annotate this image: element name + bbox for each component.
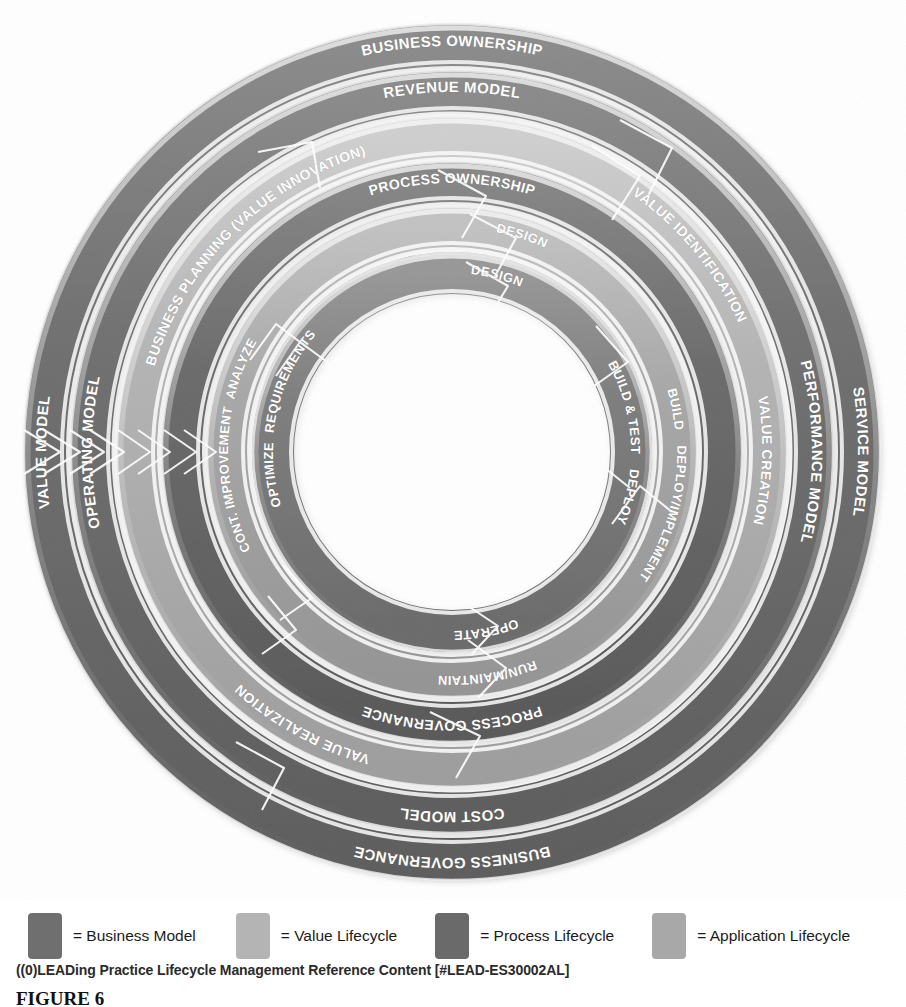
- ring-6-application-lifecycle-inner: [253, 253, 651, 651]
- legend: = Business Model = Value Lifecycle = Pro…: [0, 908, 906, 964]
- legend-item: = Value Lifecycle: [236, 913, 397, 959]
- application-lifecycle-swatch: [652, 913, 686, 959]
- value-lifecycle-swatch: [236, 913, 270, 959]
- legend-item: = Business Model: [28, 913, 196, 959]
- ring-bands: [24, 24, 880, 880]
- legend-label: = Business Model: [73, 927, 196, 945]
- lifecycle-diagram: BUSINESS OWNERSHIP SERVICE MODEL BUSINES…: [0, 0, 906, 900]
- legend-label: = Application Lifecycle: [697, 927, 850, 945]
- figure-caption: FIGURE 6: [16, 988, 104, 1007]
- legend-label: = Value Lifecycle: [281, 927, 397, 945]
- legend-item: = Process Lifecycle: [435, 913, 614, 959]
- business-model-swatch: [28, 913, 62, 959]
- legend-label: = Process Lifecycle: [480, 927, 614, 945]
- concentric-rings-svg: BUSINESS OWNERSHIP SERVICE MODEL BUSINES…: [0, 0, 906, 900]
- legend-item: = Application Lifecycle: [652, 913, 850, 959]
- process-lifecycle-swatch: [435, 913, 469, 959]
- ring-4-process-lifecycle: [162, 162, 742, 742]
- source-attribution: ((0)LEADing Practice Lifecycle Managemen…: [16, 962, 569, 978]
